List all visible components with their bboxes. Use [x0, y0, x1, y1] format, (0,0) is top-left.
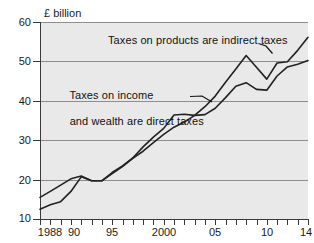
chart-container: £ billion 60 50 40 30 20 10 1988 90 95 2…: [0, 0, 314, 243]
annotation-direct-line1: Taxes on income: [69, 89, 153, 101]
annotation-indirect-taxes: Taxes on products are indirect taxes: [108, 34, 288, 47]
annotation-direct-taxes: Taxes on income and wealth are direct ta…: [57, 76, 204, 141]
annotation-direct-line2: and wealth are direct taxes: [70, 115, 204, 127]
